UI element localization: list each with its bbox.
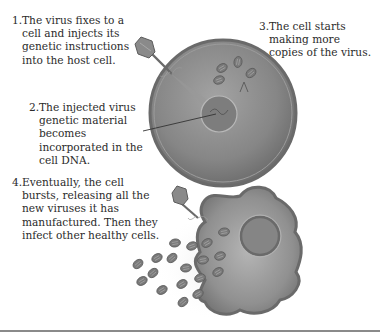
nucleus <box>201 96 237 132</box>
nucleus <box>241 217 279 255</box>
virus-illustration <box>0 0 380 333</box>
infected-cell-top <box>135 37 296 186</box>
bursting-cell-bottom <box>131 186 301 320</box>
bottom-divider <box>0 330 380 332</box>
